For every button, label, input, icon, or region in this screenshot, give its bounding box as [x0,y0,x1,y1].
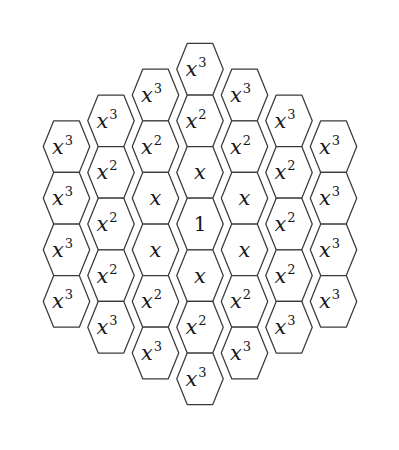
hex-cell-label: x [239,237,251,261]
hex-cell-label: x [150,237,162,261]
hex-cell-label: x [150,186,162,210]
hex-cell-label: x [239,186,251,210]
hexagonal-grid-figure: x3x3x3x3x3x2x2x2x3x3x2xxx2x3x3x2x1xx2x3x… [0,0,399,450]
hex-cell-label: x [194,160,206,184]
hex-cell-label: 1 [194,212,207,236]
hex-cell-label: x [194,263,206,287]
hexagon-tiling-svg: x3x3x3x3x3x2x2x2x3x3x2xxx2x3x3x2x1xx2x3x… [0,0,399,450]
